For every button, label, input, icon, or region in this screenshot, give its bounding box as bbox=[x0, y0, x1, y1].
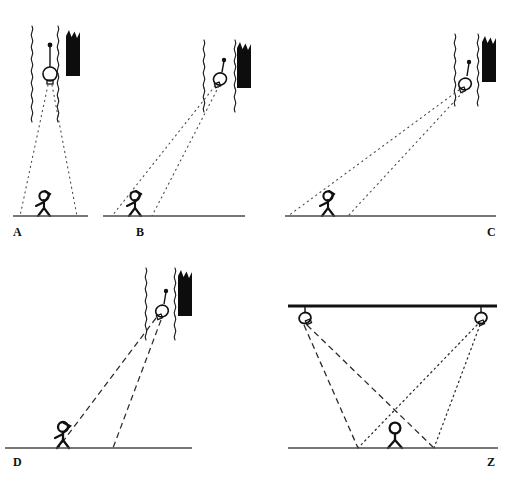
light-rays-C bbox=[288, 90, 463, 216]
stick-figure-A bbox=[36, 191, 50, 216]
lamp-icon-B bbox=[212, 58, 229, 88]
panel-label-a: A bbox=[13, 226, 22, 238]
dark-curtain-icon-A bbox=[66, 30, 80, 76]
window-frame-B bbox=[203, 40, 236, 112]
panel-Z bbox=[288, 306, 498, 448]
window-jamb-right-icon bbox=[174, 268, 176, 340]
panel-A bbox=[13, 26, 88, 216]
light-rays-Z-dotted bbox=[358, 325, 480, 448]
lamp-icon-D bbox=[154, 289, 170, 320]
dark-curtain-icon-B bbox=[237, 42, 251, 88]
window-jamb-right-icon bbox=[234, 40, 236, 112]
panel-label-z: Z bbox=[487, 456, 495, 468]
stick-figure-C bbox=[320, 191, 334, 216]
panel-C bbox=[285, 34, 496, 216]
dark-curtain-icon-C bbox=[482, 36, 496, 82]
panel-label-d: D bbox=[13, 456, 22, 468]
lamp-icon-A bbox=[43, 43, 57, 84]
panel-label-c: C bbox=[487, 226, 496, 238]
window-jamb-left-icon bbox=[454, 34, 456, 106]
window-jamb-right-icon bbox=[477, 34, 479, 106]
window-jamb-left-icon bbox=[145, 268, 147, 340]
lamp-icon-Z-left bbox=[297, 307, 312, 325]
window-frame-A bbox=[31, 26, 59, 122]
lamp-icon-C bbox=[457, 60, 473, 93]
ray-diagram-illustration bbox=[0, 0, 510, 481]
light-rays-B bbox=[112, 86, 219, 216]
panel-label-b: B bbox=[136, 226, 144, 238]
lamp-icon-Z-right bbox=[473, 307, 488, 326]
window-frame-C bbox=[454, 34, 479, 106]
window-frame-D bbox=[145, 268, 176, 340]
window-jamb-left-icon bbox=[203, 40, 205, 112]
stick-figure-D bbox=[55, 422, 70, 448]
stick-figure-Z bbox=[388, 423, 402, 448]
panel-B bbox=[103, 40, 251, 216]
dark-curtain-icon-D bbox=[178, 270, 192, 316]
figure-root: A B C D Z bbox=[0, 0, 510, 481]
light-rays-Z-dashed bbox=[304, 325, 434, 448]
stick-figure-B bbox=[127, 191, 141, 216]
window-jamb-left-icon bbox=[31, 26, 33, 122]
panel-D bbox=[5, 268, 192, 448]
